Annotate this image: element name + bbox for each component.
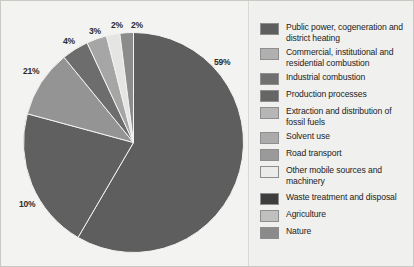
legend-item-label: Commercial, institutional and residentia… [286,47,408,68]
legend-item[interactable]: Commercial, institutional and residentia… [260,47,410,68]
legend-swatch-icon [260,149,279,161]
slice-label-21: 21% [23,66,39,76]
legend-item[interactable]: Road transport [260,148,410,161]
legend-item-label: Public power, cogeneration and district … [286,22,408,43]
pie-chart-panel: 59% 21% 10% 4% 3% 2% 2% [1,1,249,266]
legend-item-label: Industrial combustion [286,72,365,83]
legend-item-label: Solvent use [286,131,330,142]
slice-label-2-solvent: 2% [111,20,123,30]
legend-item-label: Extraction and distribution of fossil fu… [286,106,408,127]
legend-item[interactable]: Agriculture [260,209,410,222]
legend-swatch-icon [260,227,279,239]
legend-item[interactable]: Waste treatment and disposal [260,192,410,205]
legend-item[interactable]: Solvent use [260,131,410,144]
legend-item-label: Agriculture [286,209,326,220]
legend-swatch-icon [260,107,279,119]
legend-swatch-icon [260,210,279,222]
legend-panel: Public power, cogeneration and district … [250,1,413,266]
slice-label-10: 10% [19,199,35,209]
legend-swatch-icon [260,73,279,85]
legend-item-label: Nature [286,226,311,237]
legend-item-label: Other mobile sources and machinery [286,165,408,186]
legend-item[interactable]: Nature [260,226,410,239]
slice-label-59: 59% [214,57,230,67]
slice-label-2-road: 2% [131,20,143,30]
pie-chart-svg [23,32,244,253]
slice-label-3: 3% [89,26,101,36]
legend-swatch-icon [260,90,279,102]
legend-list: Public power, cogeneration and district … [260,22,410,243]
legend-swatch-icon [260,193,279,205]
pie-chart [23,32,244,253]
legend-swatch-icon [260,132,279,144]
legend-item[interactable]: Industrial combustion [260,72,410,85]
legend-item-label: Waste treatment and disposal [286,192,397,203]
slice-label-4: 4% [63,36,75,46]
chart-screenshot: 59% 21% 10% 4% 3% 2% 2% Public power, co… [0,0,414,267]
legend-swatch-icon [260,23,279,35]
legend-item-label: Road transport [286,148,341,159]
legend-item[interactable]: Extraction and distribution of fossil fu… [260,106,410,127]
legend-swatch-icon [260,166,279,178]
legend-item[interactable]: Other mobile sources and machinery [260,165,410,186]
legend-item[interactable]: Public power, cogeneration and district … [260,22,410,43]
legend-swatch-icon [260,48,279,60]
legend-item-label: Production processes [286,89,367,100]
legend-item[interactable]: Production processes [260,89,410,102]
